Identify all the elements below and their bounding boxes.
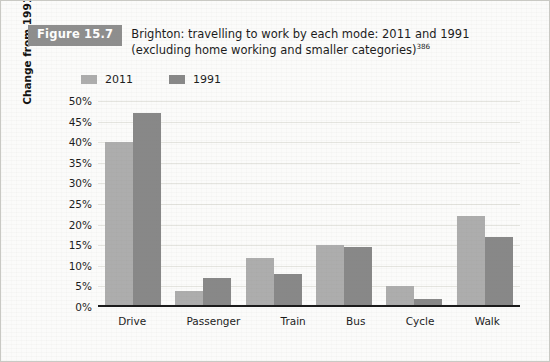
x-axis-tick-label-cycle: Cycle [406,315,435,327]
bar-group-train [246,101,302,307]
x-axis-tick-label-walk: Walk [475,315,500,327]
legend-swatch-2011 [81,75,97,84]
chart-legend: 2011 1991 [81,73,257,86]
y-axis-tick-label: 20% [69,219,92,231]
y-axis-tick-label: 10% [69,260,92,272]
x-axis-tick-labels: DrivePassengerTrainBusCycleWalk [98,315,520,327]
y-axis-tick-label: 35% [69,157,92,169]
legend-swatch-1991 [169,75,185,84]
y-axis-tick-label: 50% [69,95,92,107]
bar-cycle-2011[interactable] [386,286,414,307]
chart-plot-area: Change from 1991 to 2011 50%45%40%35%30%… [28,101,524,333]
x-axis-tick-label-bus: Bus [346,315,365,327]
bar-group-passenger [175,101,231,307]
y-axis-tick-labels: 50%45%40%35%30%25%20%15%10%5%0% [52,101,96,307]
bar-train-2011[interactable] [246,258,274,307]
bar-group-bus [316,101,372,307]
figure-title-footnote-superscript: 386 [416,43,430,52]
bar-bus-2011[interactable] [316,245,344,307]
x-axis-tick-label-passenger: Passenger [186,315,240,327]
bar-walk-1991[interactable] [485,237,513,307]
bar-passenger-1991[interactable] [203,278,231,307]
bar-drive-2011[interactable] [105,142,133,307]
plot-canvas [98,101,520,307]
bar-train-1991[interactable] [274,274,302,307]
y-axis-tick-label: 40% [69,136,92,148]
figure-title: Brighton: travelling to work by each mod… [131,25,469,59]
bar-groups [98,101,520,307]
bar-bus-1991[interactable] [344,247,372,307]
legend-label-1991: 1991 [193,73,221,86]
figure-title-line-1: Brighton: travelling to work by each mod… [131,27,469,41]
bar-group-walk [457,101,513,307]
y-axis-tick-label: 45% [69,116,92,128]
bar-drive-1991[interactable] [133,113,161,307]
bar-walk-2011[interactable] [457,216,485,307]
figure-header: Figure 15.7 Brighton: travelling to work… [28,25,469,59]
y-axis-tick-label: 30% [69,177,92,189]
y-axis-tick-label: 5% [75,280,92,292]
x-axis-baseline [98,305,520,307]
y-axis-title: Change from 1991 to 2011 [20,0,34,129]
bar-group-cycle [386,101,442,307]
x-axis-tick-label-drive: Drive [118,315,146,327]
y-axis-tick-label: 25% [69,198,92,210]
legend-label-2011: 2011 [105,73,133,86]
figure-title-line-2: (excluding home working and smaller cate… [131,43,416,57]
figure-number-badge: Figure 15.7 [28,25,122,46]
bar-group-drive [105,101,161,307]
x-axis-tick-label-train: Train [281,315,306,327]
y-axis-tick-label: 0% [75,301,92,313]
legend-entry-1991: 1991 [169,73,221,86]
figure-container: Figure 15.7 Brighton: travelling to work… [0,0,550,362]
y-axis-tick-label: 15% [69,239,92,251]
legend-entry-2011: 2011 [81,73,133,86]
